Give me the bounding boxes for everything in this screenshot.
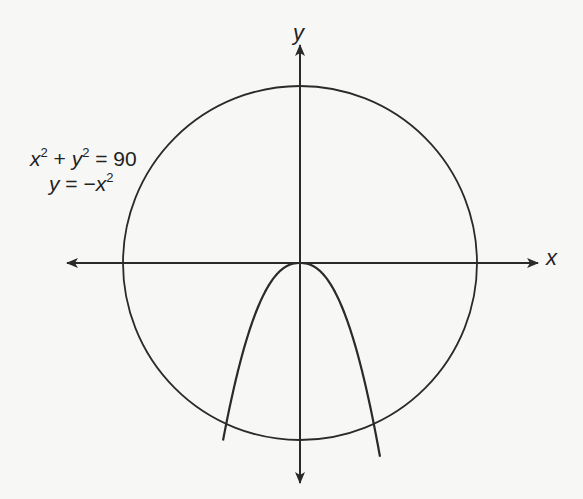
eq2-eq: = − — [60, 172, 96, 195]
eq1-x-exp: 2 — [41, 145, 48, 160]
parabola-curve — [223, 263, 380, 457]
parabola-equation: y = −x2 — [30, 171, 137, 196]
eq1-x: x — [30, 147, 41, 170]
coordinate-graph — [0, 0, 583, 499]
equations-label: x2 + y2 = 90 y = −x2 — [30, 146, 137, 196]
eq1-plus: + — [48, 147, 72, 170]
eq1-y: y — [72, 147, 83, 170]
x-axis-label: x — [546, 247, 557, 269]
circle-equation: x2 + y2 = 90 — [30, 146, 137, 171]
y-axis-label: y — [293, 22, 304, 44]
eq1-rhs: = 90 — [89, 147, 136, 170]
eq2-x-exp: 2 — [106, 170, 113, 185]
eq2-x: x — [96, 172, 107, 195]
eq2-y: y — [49, 172, 60, 195]
